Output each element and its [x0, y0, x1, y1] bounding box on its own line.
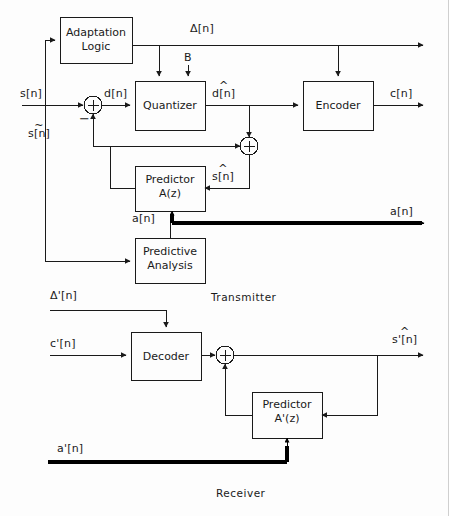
label-predictor: Predictor A(z) — [135, 173, 205, 202]
signal-label-s-input: s[n] — [20, 88, 42, 101]
hat-mark-s-prime: ^ — [392, 326, 417, 337]
diagram-vector-layer — [0, 0, 449, 516]
signal-label-a-output: a[n] — [390, 206, 413, 219]
signal-label-d: d[n] — [104, 88, 127, 101]
signal-label-s-hat: ^s[n] — [212, 171, 234, 184]
signal-label-B: B — [184, 52, 192, 65]
tilde-mark-s: ~ — [28, 120, 50, 131]
label-decoder: Decoder — [131, 350, 201, 364]
signal-label-a: a[n] — [132, 213, 155, 226]
label-quantizer: Quantizer — [135, 99, 205, 113]
signal-label-a-prime: a'[n] — [57, 443, 83, 456]
label-encoder: Encoder — [303, 99, 373, 113]
hat-mark-d: ^ — [212, 80, 235, 91]
label-adaptation-logic: Adaptation Logic — [60, 26, 132, 55]
signal-label-c-prime: c'[n] — [50, 338, 76, 351]
label-predictive-analysis: Predictive Analysis — [135, 245, 205, 274]
wire-receiver-feedback — [330, 355, 377, 415]
diagram-canvas: Adaptation Logic Quantizer Encoder Predi… — [0, 0, 449, 516]
signal-label-s-hat-prime: ^s'[n] — [392, 334, 417, 347]
signal-label-delta-prime: Δ'[n] — [50, 290, 77, 303]
signal-label-c: c[n] — [390, 88, 412, 101]
wire-stilde-to-predictor — [110, 146, 130, 188]
label-predictor-prime: Predictor A'(z) — [252, 398, 322, 427]
signal-label-d-hat: ^d[n] — [212, 88, 235, 101]
minus-sign-label: − — [79, 112, 90, 127]
hat-mark-s: ^ — [212, 163, 234, 174]
section-label-receiver: Receiver — [216, 487, 265, 499]
signal-label-s-tilde: ~s[n] — [28, 128, 50, 141]
signal-label-delta: Δ[n] — [190, 23, 214, 36]
section-label-transmitter: Transmitter — [211, 291, 276, 303]
